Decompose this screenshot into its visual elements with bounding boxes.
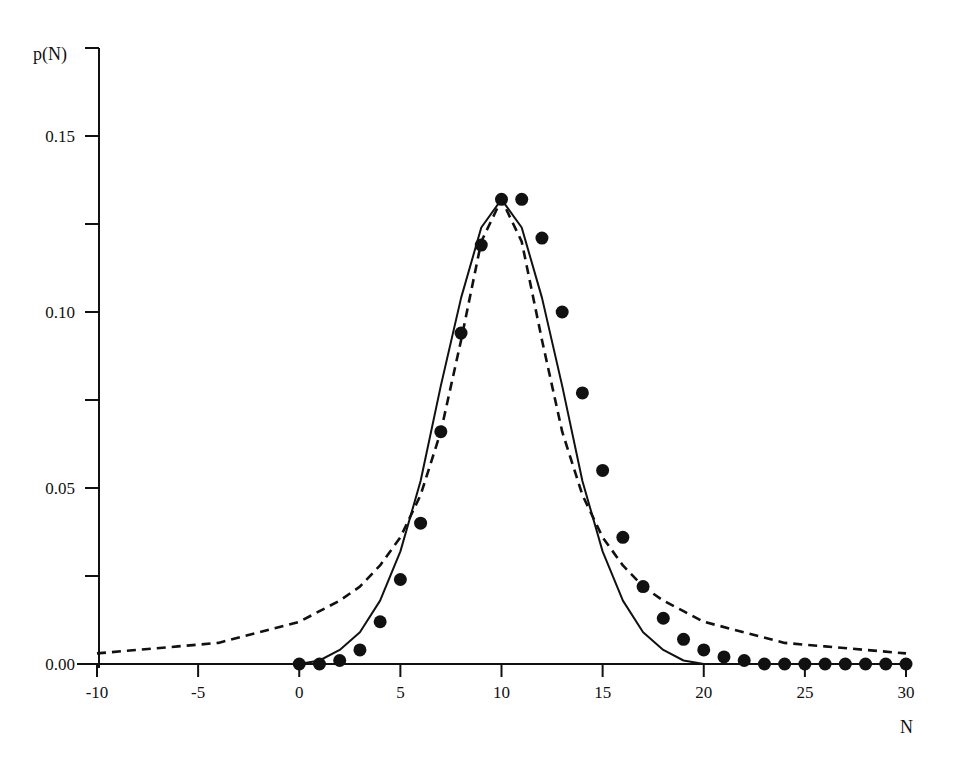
y-tick-label: 0.10: [45, 303, 75, 322]
data-point: [697, 643, 710, 656]
y-tick-label: 0.05: [45, 479, 75, 498]
x-tick-label: 0: [295, 683, 304, 702]
data-point: [515, 193, 528, 206]
data-point: [374, 615, 387, 628]
series-layer: [97, 193, 913, 671]
data-point: [596, 464, 609, 477]
data-point: [677, 633, 690, 646]
x-tick-label: 20: [695, 683, 712, 702]
data-point: [333, 654, 346, 667]
data-point: [455, 327, 468, 340]
data-point: [414, 517, 427, 530]
data-point: [717, 650, 730, 663]
x-tick-label: -5: [191, 683, 205, 702]
data-point: [556, 306, 569, 319]
data-point: [353, 643, 366, 656]
data-point: [738, 654, 751, 667]
dashed-curve: [97, 199, 906, 653]
axes: 0.000.050.100.15-10-5051015202530: [45, 48, 914, 702]
y-tick-label: 0.00: [45, 655, 75, 674]
data-point: [576, 386, 589, 399]
x-tick-label: 25: [796, 683, 813, 702]
x-tick-label: -10: [86, 683, 109, 702]
x-tick-label: 10: [493, 683, 510, 702]
y-tick-label: 0.15: [45, 127, 75, 146]
x-tick-label: 15: [594, 683, 611, 702]
data-point: [394, 573, 407, 586]
x-tick-label: 30: [898, 683, 915, 702]
y-axis-label: p(N): [33, 44, 67, 65]
data-point: [535, 232, 548, 245]
x-axis-label: N: [900, 717, 913, 737]
data-point: [657, 612, 670, 625]
data-point: [616, 531, 629, 544]
x-tick-label: 5: [396, 683, 405, 702]
chart: 0.000.050.100.15-10-5051015202530 p(N) N: [0, 0, 969, 769]
solid-curve: [299, 199, 906, 664]
